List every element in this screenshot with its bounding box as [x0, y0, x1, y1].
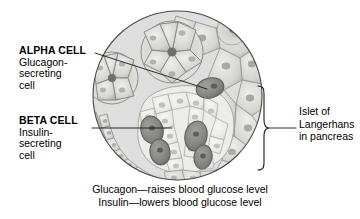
- alpha-cell-title: ALPHA CELL: [19, 45, 86, 57]
- caption-line-insulin: Insulin—lowers blood glucose level: [0, 196, 360, 209]
- islet-label-line2: Langerhans: [299, 118, 354, 131]
- caption-line-glucagon: Glucagon—raises blood glucose level: [0, 183, 360, 196]
- beta-cell-desc-line3: cell: [19, 150, 78, 162]
- islet-label: Islet of Langerhans in pancreas: [299, 105, 354, 143]
- islet-label-line3: in pancreas: [299, 130, 354, 143]
- beta-cell-title: BETA CELL: [19, 115, 78, 127]
- microscope-field: [86, 8, 270, 192]
- alpha-cell-desc-line2: secreting: [19, 68, 86, 80]
- tissue-content: [86, 8, 270, 192]
- alpha-cell-label: ALPHA CELL Glucagon- secreting cell: [19, 45, 86, 91]
- islet-label-line1: Islet of: [299, 105, 354, 118]
- pancreas-islet-figure: ALPHA CELL Glucagon- secreting cell BETA…: [0, 0, 360, 219]
- figure-caption: Glucagon—raises blood glucose level Insu…: [0, 183, 360, 209]
- beta-cell-desc-line2: secreting: [19, 138, 78, 150]
- alpha-cell-desc-line3: cell: [19, 80, 86, 92]
- beta-cell-label: BETA CELL Insulin- secreting cell: [19, 115, 78, 161]
